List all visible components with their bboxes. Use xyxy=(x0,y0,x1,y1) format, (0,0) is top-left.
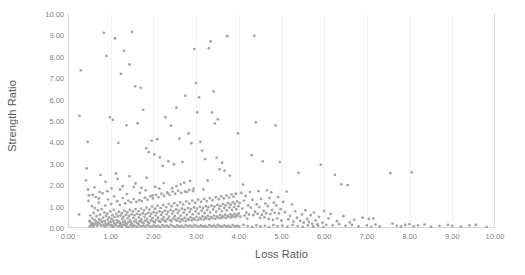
data-point xyxy=(126,211,129,214)
data-point xyxy=(179,201,182,204)
data-point xyxy=(184,208,187,211)
data-point xyxy=(112,208,115,211)
data-point xyxy=(161,211,164,214)
data-point xyxy=(228,174,231,177)
data-point xyxy=(88,194,91,197)
data-point xyxy=(395,224,398,227)
data-point xyxy=(249,191,252,194)
data-point xyxy=(227,215,230,218)
data-point xyxy=(179,183,182,186)
data-point xyxy=(447,224,450,227)
plot-canvas xyxy=(68,14,495,228)
data-point xyxy=(99,174,102,177)
data-point xyxy=(179,214,182,217)
data-point xyxy=(244,195,247,198)
data-point xyxy=(175,219,178,222)
data-point xyxy=(191,199,194,202)
data-point xyxy=(161,165,164,168)
data-point xyxy=(277,196,280,199)
data-point xyxy=(254,210,257,213)
data-point xyxy=(128,175,131,178)
data-point xyxy=(199,141,202,144)
data-point xyxy=(133,214,136,217)
y-axis-title-label: Strength Ratio xyxy=(6,80,18,152)
data-point xyxy=(228,196,231,199)
data-point xyxy=(106,190,109,193)
data-point xyxy=(152,211,155,214)
data-point xyxy=(220,210,223,213)
data-point xyxy=(178,220,181,223)
data-point xyxy=(237,205,240,208)
data-point xyxy=(202,206,205,209)
data-point xyxy=(150,212,153,215)
data-point xyxy=(451,224,454,227)
data-point xyxy=(165,213,168,216)
data-point xyxy=(276,225,279,228)
data-point xyxy=(93,186,96,189)
data-point xyxy=(139,86,142,89)
data-point xyxy=(242,224,245,227)
data-point xyxy=(400,225,403,228)
data-point xyxy=(234,192,237,195)
data-point xyxy=(170,124,173,127)
data-point xyxy=(222,216,225,219)
data-point xyxy=(266,205,269,208)
data-point xyxy=(142,222,145,225)
data-point xyxy=(175,185,178,188)
data-point xyxy=(144,189,147,192)
data-point xyxy=(474,224,477,227)
data-point xyxy=(239,215,242,218)
data-point xyxy=(145,206,148,209)
data-point xyxy=(87,199,90,202)
data-point xyxy=(215,156,218,159)
data-point xyxy=(154,214,157,217)
data-point xyxy=(152,197,155,200)
data-point xyxy=(199,218,202,221)
data-point xyxy=(193,218,196,221)
data-point xyxy=(309,214,312,217)
data-point xyxy=(130,213,133,216)
data-point xyxy=(167,225,170,228)
x-axis-tick-label: 8.00 xyxy=(387,232,433,241)
data-point xyxy=(468,224,471,227)
data-point xyxy=(97,197,100,200)
data-point xyxy=(149,215,152,218)
data-point xyxy=(177,189,180,192)
data-point xyxy=(193,48,196,51)
data-point xyxy=(217,216,220,219)
data-point xyxy=(174,192,177,195)
data-point xyxy=(96,209,99,212)
data-point xyxy=(201,149,204,152)
data-point xyxy=(238,202,241,205)
data-point xyxy=(162,216,165,219)
data-point xyxy=(325,223,328,226)
data-point xyxy=(195,82,198,85)
data-point xyxy=(225,209,228,212)
data-point xyxy=(146,217,149,220)
data-point xyxy=(241,207,244,210)
data-point xyxy=(296,225,299,228)
data-point xyxy=(134,208,137,211)
data-point xyxy=(116,177,119,180)
data-point xyxy=(115,213,118,216)
data-point xyxy=(249,206,252,209)
data-point xyxy=(216,203,219,206)
y-axis-tick-label: 3.00 xyxy=(24,159,64,168)
data-point xyxy=(167,203,170,206)
data-point xyxy=(107,198,110,201)
data-point xyxy=(224,204,227,207)
data-point xyxy=(214,196,217,199)
data-point xyxy=(158,210,161,213)
x-axis-tick-label: 5.00 xyxy=(259,232,305,241)
data-point xyxy=(270,191,273,194)
data-point xyxy=(125,124,128,127)
data-point xyxy=(96,224,99,227)
data-point xyxy=(223,169,226,172)
data-point xyxy=(206,209,209,212)
data-point xyxy=(269,213,272,216)
data-point xyxy=(172,210,175,213)
data-point xyxy=(194,210,197,213)
data-point xyxy=(167,192,170,195)
data-point xyxy=(252,214,255,217)
data-point xyxy=(154,186,157,189)
